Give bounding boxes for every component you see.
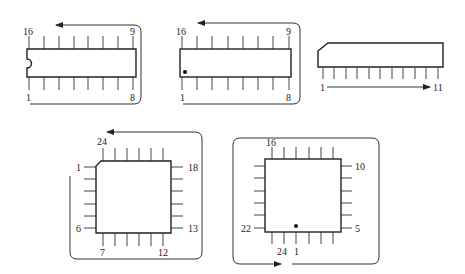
left-pins [84, 167, 96, 228]
pin-label-9: 9 [130, 26, 135, 37]
pin-label-16: 16 [176, 26, 186, 37]
pin-label-13: 13 [188, 223, 198, 234]
pin-label-7: 7 [100, 247, 105, 258]
pin-label-12: 12 [158, 247, 168, 258]
pin-label-5: 5 [355, 223, 360, 234]
pin-label-9: 9 [286, 26, 291, 37]
dip16-notch-package: 16 9 1 8 [23, 25, 141, 104]
quad24-dot-package: 16 10 22 5 24 1 [233, 137, 379, 264]
pin-label-8: 8 [286, 92, 291, 103]
pin-label-8: 8 [130, 92, 135, 103]
chip-body-chamfered [318, 43, 443, 67]
top-pins [29, 36, 133, 49]
pin-label-24: 24 [277, 246, 287, 257]
pin-label-11: 11 [433, 82, 443, 93]
sip11-package: 1 11 [318, 43, 443, 93]
chip-body-notched [27, 49, 136, 77]
bottom-pins [103, 233, 163, 246]
pin-label-6: 6 [76, 223, 81, 234]
bottom-pins [182, 77, 289, 90]
pin-label-24: 24 [97, 136, 107, 147]
pin1-dot-marker [183, 70, 187, 74]
pin-label-10: 10 [355, 161, 365, 172]
chip-body [265, 159, 341, 232]
top-pins [272, 147, 333, 159]
top-pins [103, 148, 163, 161]
right-pins [341, 166, 352, 228]
pin-label-16: 16 [266, 137, 276, 148]
ic-pinout-diagram: 16 9 1 8 16 9 1 [0, 0, 465, 274]
pin-label-1: 1 [320, 82, 325, 93]
pin-label-1: 1 [76, 162, 81, 173]
chip-body-chamfered [96, 161, 171, 233]
right-pins [171, 167, 183, 228]
quad24-chamfer-package: 24 1 18 6 13 7 12 [70, 132, 202, 259]
pins [323, 67, 438, 79]
pin-label-18: 18 [188, 162, 198, 173]
top-pins [182, 36, 289, 49]
bottom-pins [272, 232, 333, 244]
pin-label-16: 16 [23, 26, 33, 37]
pin-label-1: 1 [180, 92, 185, 103]
pin-label-1: 1 [294, 246, 299, 257]
pin1-dot-marker [294, 224, 298, 228]
pin-label-22: 22 [241, 223, 251, 234]
chip-body [180, 49, 291, 77]
left-pins [254, 166, 265, 228]
bottom-pins [29, 77, 133, 90]
pin-label-1: 1 [26, 92, 31, 103]
dip16-dot-package: 16 9 1 8 [176, 23, 300, 104]
